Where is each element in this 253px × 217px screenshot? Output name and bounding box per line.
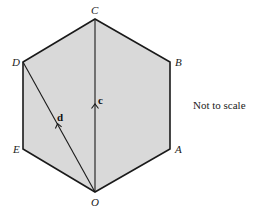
vertex-label-a: A xyxy=(174,143,182,155)
vertex-label-o: O xyxy=(91,196,99,208)
vector-label-d: d xyxy=(57,111,63,123)
vertex-label-b: B xyxy=(175,56,182,68)
vector-label-c: c xyxy=(98,94,103,106)
not-to-scale-note: Not to scale xyxy=(193,99,246,111)
hexagon-diagram: C B A O E D c d Not to scale xyxy=(0,0,253,217)
vertex-label-d: D xyxy=(11,56,20,68)
vertex-label-c: C xyxy=(91,4,99,16)
vertex-label-e: E xyxy=(12,143,20,155)
